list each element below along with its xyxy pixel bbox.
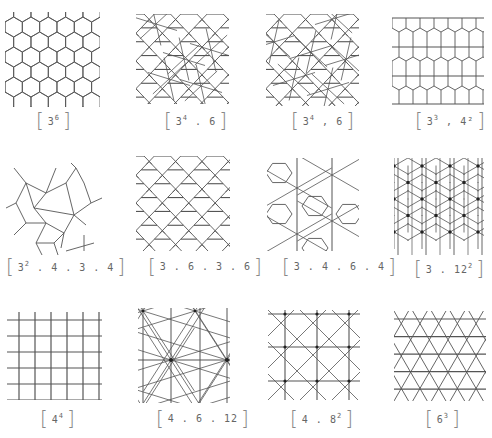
tiling-rhombille <box>136 156 230 251</box>
tiling-deltoidal-trihexagonal <box>267 158 359 251</box>
tiling-square <box>7 312 102 400</box>
tiling-label: [3 . 122] <box>414 258 485 278</box>
tiling-hexagonal <box>5 12 100 107</box>
tiling-label: [34 . 6] <box>164 110 228 130</box>
tiling-label: [33 , 4²] <box>415 110 486 130</box>
tiling-cairo-pentagonal <box>6 163 102 255</box>
tiling-snub-hexagonal <box>136 14 229 104</box>
tiling-tetrakis-square <box>268 310 360 400</box>
tiling-triakis-triangular <box>394 158 484 255</box>
tiling-label: [4 . 82] <box>290 408 354 428</box>
tiling-kisrhombille <box>138 308 230 403</box>
tiling-elongated-triangular <box>392 12 484 107</box>
tiling-label: [32 . 4 . 3 . 4] <box>6 256 126 276</box>
tiling-label: [36] <box>36 110 72 130</box>
tiling-snub-hexagonal-mirror <box>266 14 359 106</box>
tiling-label: [44] <box>40 408 76 428</box>
tiling-label: [3 . 4 . 6 . 4] <box>282 256 397 276</box>
tiling-label: [63] <box>425 408 461 428</box>
tiling-triangular <box>394 311 486 401</box>
tiling-label: [34 , 6] <box>291 110 355 130</box>
tiling-label: [4 . 6 . 12] <box>156 408 250 428</box>
tiling-label: [3 . 6 . 3 . 6] <box>148 256 263 276</box>
